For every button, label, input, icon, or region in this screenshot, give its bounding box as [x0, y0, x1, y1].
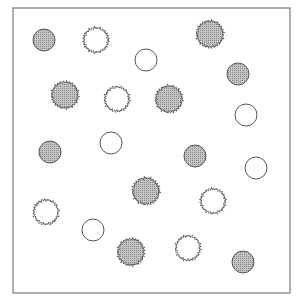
open-smooth-circle — [235, 104, 257, 126]
filled-jagged-circle — [51, 81, 79, 109]
filled-smooth-circle — [39, 141, 61, 163]
circle-pattern-figure — [0, 0, 299, 299]
open-jagged-circle — [33, 199, 59, 225]
open-smooth-circle — [100, 132, 122, 154]
filled-jagged-circle — [132, 177, 160, 205]
figure-canvas — [0, 0, 299, 299]
filled-smooth-circle — [232, 251, 254, 273]
filled-jagged-circle — [196, 20, 224, 48]
filled-smooth-circle — [184, 145, 206, 167]
open-jagged-circle — [175, 235, 201, 261]
open-smooth-circle — [82, 219, 104, 241]
open-jagged-circle — [83, 27, 109, 53]
filled-jagged-circle — [117, 238, 145, 266]
filled-jagged-circle — [155, 85, 183, 113]
circles-group — [33, 20, 267, 273]
open-jagged-circle — [104, 86, 130, 112]
filled-smooth-circle — [227, 63, 249, 85]
open-smooth-circle — [135, 49, 157, 71]
filled-smooth-circle — [33, 29, 55, 51]
open-smooth-circle — [245, 157, 267, 179]
open-jagged-circle — [200, 188, 226, 214]
